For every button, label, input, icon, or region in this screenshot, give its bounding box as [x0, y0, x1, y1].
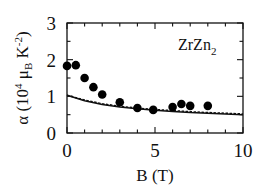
data-point — [80, 74, 89, 83]
data-point — [116, 98, 125, 107]
annotation-zrzn2: ZrZn2 — [178, 36, 216, 57]
x-tick-label: 5 — [150, 140, 160, 161]
data-point — [72, 61, 81, 70]
data-point — [133, 104, 142, 113]
plot-frame — [67, 23, 243, 133]
x-tick-label: 0 — [62, 140, 72, 161]
data-point — [149, 106, 158, 115]
axis-ticks — [67, 23, 243, 133]
data-point — [98, 90, 107, 99]
x-tick-label: 10 — [234, 140, 253, 161]
data-points — [63, 61, 212, 114]
data-point — [63, 62, 72, 71]
y-tick-label: 2 — [47, 50, 57, 71]
y-tick-label: 1 — [47, 86, 57, 107]
chart: 05100123 ZrZn2 B (T) α (104 μB K-2) — [0, 0, 261, 189]
data-point — [168, 103, 177, 112]
y-tick-label: 3 — [47, 13, 57, 34]
data-point — [204, 102, 213, 111]
data-point — [89, 83, 98, 92]
data-point — [177, 100, 186, 109]
y-tick-label: 0 — [47, 123, 57, 144]
y-axis-label: α (104 μB K-2) — [12, 31, 34, 124]
data-point — [186, 102, 195, 111]
tick-labels: 05100123 — [47, 13, 253, 161]
x-axis-label: B (T) — [136, 166, 173, 185]
